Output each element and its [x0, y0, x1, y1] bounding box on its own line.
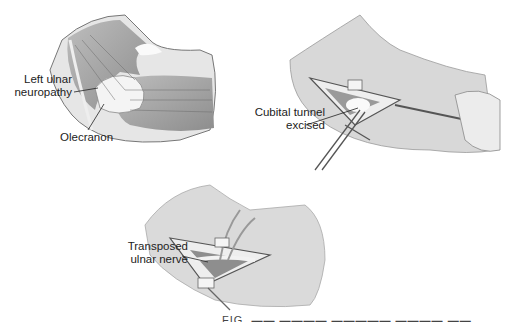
leader-line-panel-2: [250, 0, 506, 180]
figure-caption: FIG. ▬▬ ▬▬▬▬ ▬▬▬▬▬ ▬▬▬▬ ▬▬: [222, 314, 472, 322]
leader-line-panel-3: [120, 160, 380, 315]
panel-elbow-anatomy: Left ulnar neuropathy Olecranon: [0, 0, 260, 160]
label-olecranon: Olecranon: [60, 131, 113, 144]
panel-cubital-tunnel-excision: Cubital tunnel excised: [250, 0, 506, 180]
leader-lines-panel-1: [0, 0, 260, 160]
panel-transposed-nerve: Transposed ulnar nerve: [120, 160, 380, 315]
